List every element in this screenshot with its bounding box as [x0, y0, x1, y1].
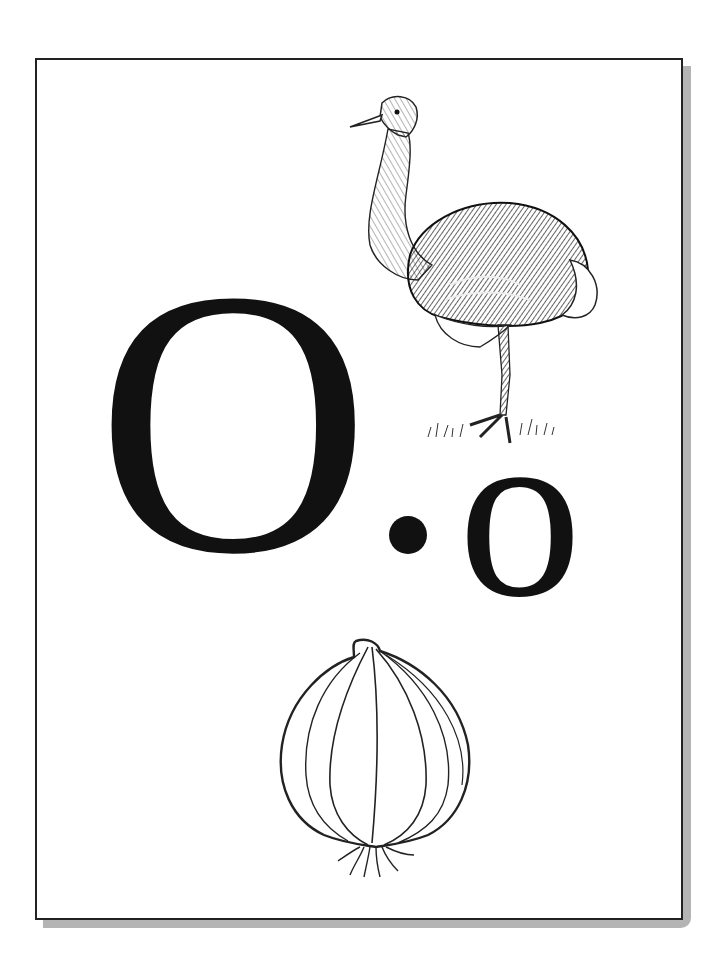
onion-roots [338, 847, 414, 877]
separator-dot [389, 516, 427, 554]
onion-bulb [281, 640, 469, 847]
onion-illustration [268, 635, 483, 880]
uppercase-letter: O [96, 232, 370, 612]
lowercase-letter: o [458, 388, 582, 636]
